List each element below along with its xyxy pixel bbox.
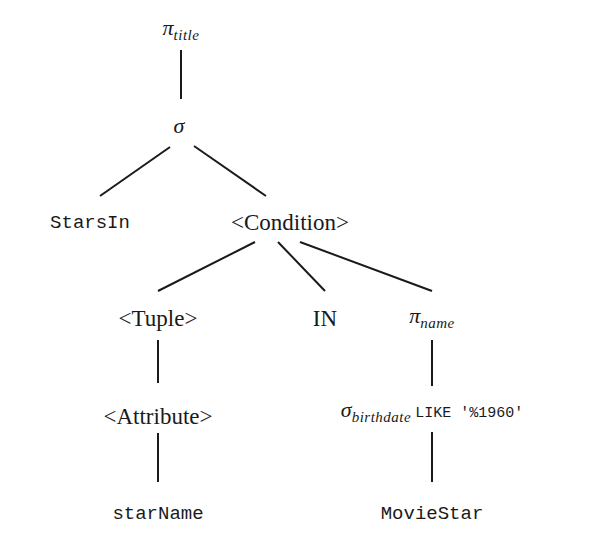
node-project-title: πtitle [163,17,200,39]
edge-select-condition [194,146,266,196]
node-attribute: <Attribute> [104,405,213,428]
subscript-birthdate: birthdate [352,409,412,425]
edge-select-starsin [100,147,170,196]
edge-condition-project-name [300,242,432,291]
subscript-name: name [420,315,455,331]
node-starname: starName [112,505,203,524]
tree-edges [0,0,615,549]
subscript-title: title [174,27,200,43]
node-select-birthdate: σbirthdateLIKE '%1960' [341,399,523,421]
node-in: IN [313,307,337,330]
like-condition: LIKE '%1960' [415,405,523,422]
sigma-symbol: σ [341,397,352,422]
node-select: σ [174,115,185,137]
edge-condition-tuple [158,242,255,291]
pi-symbol: π [409,303,420,328]
node-moviestar: MovieStar [381,505,484,524]
node-starsin: StarsIn [50,214,130,233]
pi-symbol: π [163,15,174,40]
node-condition: <Condition> [231,211,349,234]
node-tuple: <Tuple> [119,307,198,330]
node-project-name: πname [409,305,455,327]
sigma-symbol: σ [174,113,185,138]
